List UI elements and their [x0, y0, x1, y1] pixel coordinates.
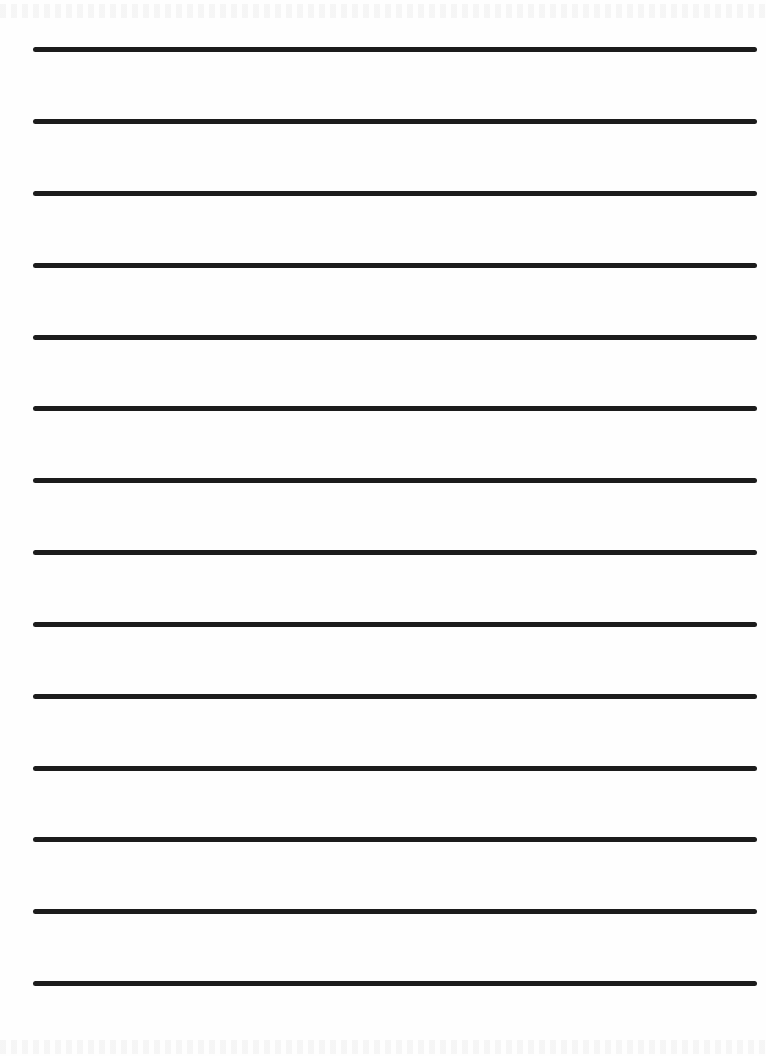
ruled-line — [33, 694, 757, 699]
ruled-line — [33, 837, 757, 842]
ruled-line — [33, 263, 757, 268]
ruled-line — [33, 119, 757, 124]
ruled-line — [33, 909, 757, 914]
ruled-line — [33, 47, 757, 52]
ruled-line — [33, 406, 757, 411]
ruled-line — [33, 335, 757, 340]
ruled-line — [33, 622, 757, 627]
document-title — [0, 0, 1, 1]
scan-bleed-bottom — [0, 1040, 766, 1054]
ruled-line — [33, 478, 757, 483]
ruled-line — [33, 191, 757, 196]
scan-bleed-top — [0, 4, 766, 18]
lined-paper-page — [0, 0, 766, 1056]
ruled-line — [33, 981, 757, 986]
ruled-line — [33, 766, 757, 771]
ruled-line — [33, 550, 757, 555]
